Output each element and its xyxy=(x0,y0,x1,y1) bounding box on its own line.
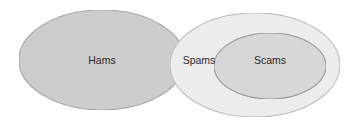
scams-label: Scams xyxy=(254,54,286,66)
venn-diagram: Hams Spams Scams xyxy=(0,0,357,126)
scams-set-ellipse xyxy=(214,33,326,99)
hams-label: Hams xyxy=(88,54,115,66)
spams-label: Spams xyxy=(183,54,216,66)
